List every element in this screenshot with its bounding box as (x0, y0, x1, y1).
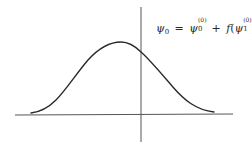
horizontal-axis (15, 114, 233, 115)
gaussian-curve (31, 42, 214, 113)
equals-sign: = (175, 22, 184, 35)
plus-sign: + (211, 22, 220, 35)
psi-symbol: ψ (235, 22, 244, 35)
psi-symbol: ψ (156, 22, 165, 35)
wavefunction-equation: ψ0 = ψ(0)0 + f(ψ(0)1) (156, 22, 252, 36)
subscript: 1 (243, 25, 247, 33)
subscript: 0 (165, 28, 169, 36)
wavefunction-diagram: ψ0 = ψ(0)0 + f(ψ(0)1) (0, 0, 252, 148)
psi-symbol: ψ (189, 22, 198, 35)
sup-sub-group: (0)0 (198, 22, 206, 32)
sup-sub-group: (0)1 (243, 22, 251, 32)
superscript: (0) (243, 16, 252, 23)
superscript: (0) (198, 16, 207, 23)
close-paren: ) (251, 22, 252, 35)
subscript: 0 (198, 25, 202, 33)
